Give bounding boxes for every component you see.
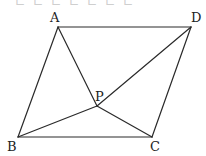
parallelogram-diagram: A D B C P bbox=[0, 0, 206, 156]
label-P: P bbox=[95, 89, 104, 104]
segment-PC bbox=[97, 106, 152, 137]
segment-BA bbox=[18, 27, 58, 137]
geometry-figure: ㄴㄴㄴㄴㄴㄴㄴ A D B C P bbox=[0, 0, 206, 156]
label-A: A bbox=[49, 10, 60, 25]
label-B: B bbox=[7, 139, 17, 154]
segment-BP bbox=[18, 106, 97, 137]
cropped-caption-text: ㄴㄴㄴㄴㄴㄴㄴ bbox=[0, 0, 206, 6]
label-C: C bbox=[150, 139, 160, 154]
label-D: D bbox=[191, 10, 201, 25]
segment-AP bbox=[58, 27, 97, 106]
